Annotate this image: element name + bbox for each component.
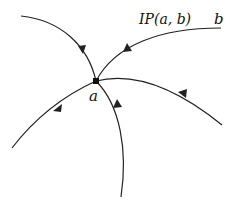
endpoint-b-label: b xyxy=(214,10,224,28)
arrow-icon xyxy=(123,43,132,52)
arrow-icon xyxy=(113,99,122,108)
flow-diagram: a IP(a, b) b xyxy=(0,0,238,208)
curve-right xyxy=(96,78,222,125)
curve-lower-left xyxy=(12,81,96,148)
curve-bottom xyxy=(96,81,123,197)
curve-ip-path xyxy=(96,28,221,81)
node-a-label: a xyxy=(89,87,98,105)
node-a xyxy=(93,78,99,84)
ip-path-label: IP(a, b) xyxy=(138,11,191,27)
